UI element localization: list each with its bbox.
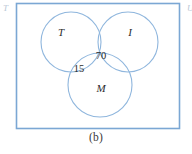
venn-figure: T I M 70 15 T U (b) (0, 0, 192, 154)
edge-label-left: T (3, 3, 9, 13)
region-value-left: 15 (74, 63, 85, 74)
region-value-center: 70 (96, 50, 107, 61)
set-label-T: T (58, 26, 65, 38)
set-circle-I (98, 12, 158, 72)
set-label-I: I (127, 26, 133, 38)
universal-set-rectangle (17, 4, 180, 129)
set-label-M: M (95, 82, 106, 94)
edge-label-right: U (187, 3, 192, 13)
figure-caption: (b) (0, 131, 192, 143)
set-circle-T (41, 12, 101, 72)
